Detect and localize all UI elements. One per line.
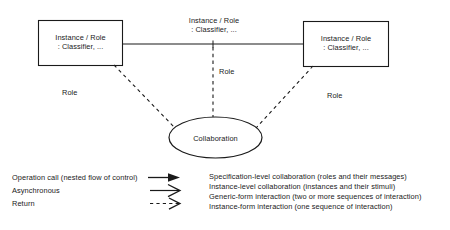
legend-description-instance-form: Instance-form interaction (one sequence … — [209, 202, 393, 212]
left-instance-line2: : Classifier, ... — [38, 42, 123, 51]
right-role-dashed-line — [255, 66, 313, 129]
association-label-line2: : Classifier, ... — [189, 25, 240, 34]
legend-description-generic-form: Generic-form interaction (two or more se… — [209, 192, 421, 202]
right-instance-line2: : Classifier, ... — [303, 43, 389, 52]
legend-description-specification-level: Specification-level collaboration (roles… — [209, 172, 407, 182]
association-label-line1: Instance / Role — [189, 16, 240, 25]
dashed-open-arrow-icon — [150, 198, 180, 209]
right-role-label: Role — [327, 91, 343, 100]
association-label: Instance / Role : Classifier, ... — [189, 16, 240, 34]
filled-arrow-icon — [148, 173, 180, 181]
legend-notation-return: Return — [12, 199, 35, 209]
legend-notation-operation-call: Operation call (nested flow of control) — [12, 173, 138, 183]
diagram-canvas: Instance / Role : Classifier, ... Instan… — [0, 0, 450, 230]
left-instance-label: Instance / Role : Classifier, ... — [38, 33, 123, 51]
right-instance-label: Instance / Role : Classifier, ... — [303, 34, 389, 52]
left-instance-line1: Instance / Role — [38, 33, 123, 42]
collaboration-label: Collaboration — [169, 134, 262, 143]
legend-description-instance-level: Instance-level collaboration (instances … — [209, 182, 395, 192]
open-arrow-icon — [150, 185, 180, 197]
center-role-label: Role — [219, 67, 235, 76]
left-role-label: Role — [62, 88, 78, 97]
right-instance-line1: Instance / Role — [303, 34, 389, 43]
legend-notation-asynchronous: Asynchronous — [12, 186, 60, 196]
left-role-dashed-line — [114, 65, 176, 129]
